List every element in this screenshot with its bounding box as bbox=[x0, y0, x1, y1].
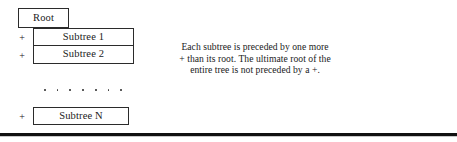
bottom-rule-shadow bbox=[0, 136, 457, 137]
vertical-ellipsis-dots bbox=[44, 85, 122, 95]
ellipsis-dot bbox=[69, 89, 71, 91]
root-node-label: Root bbox=[33, 13, 54, 24]
ellipsis-dot bbox=[82, 89, 84, 91]
ellipsis-dot bbox=[44, 89, 46, 91]
plus-sign-subtree-2: + bbox=[16, 51, 28, 61]
ellipsis-dot bbox=[57, 89, 59, 91]
caption-line-3: entire tree is not preceded by a +. bbox=[168, 64, 342, 76]
subtree-n-node-box: Subtree N bbox=[33, 107, 129, 125]
subtree-1-label: Subtree 1 bbox=[63, 32, 104, 43]
subtree-n-label: Subtree N bbox=[59, 111, 103, 122]
caption-line-1: Each subtree is preceded by one more bbox=[168, 41, 342, 53]
subtree-diagram: Root + Subtree 1 + Subtree 2 + Subtree N bbox=[0, 0, 160, 132]
ellipsis-dot bbox=[120, 89, 122, 91]
tree-notation-figure: Root + Subtree 1 + Subtree 2 + Subtree N… bbox=[0, 0, 457, 142]
subtree-2-node-box: Subtree 2 bbox=[33, 46, 134, 64]
ellipsis-dot bbox=[95, 89, 97, 91]
figure-caption-text: Each subtree is preceded by one more + t… bbox=[168, 41, 342, 76]
plus-sign-subtree-1: + bbox=[16, 33, 28, 43]
subtree-2-label: Subtree 2 bbox=[63, 49, 104, 60]
caption-line-2: + than its root. The ultimate root of th… bbox=[168, 53, 342, 65]
root-node-box: Root bbox=[18, 8, 69, 28]
plus-sign-subtree-n: + bbox=[16, 112, 28, 122]
ellipsis-dot bbox=[108, 89, 110, 91]
subtree-1-node-box: Subtree 1 bbox=[33, 28, 134, 46]
